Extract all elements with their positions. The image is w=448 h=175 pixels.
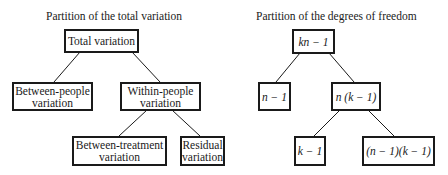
node-label: Between-people bbox=[15, 85, 90, 97]
node-k-minus-1: k − 1 bbox=[294, 136, 326, 166]
node-residual-df: (n − 1)(k − 1) bbox=[362, 136, 435, 166]
node-label: n (k − 1) bbox=[336, 91, 377, 103]
node-label: variation bbox=[76, 151, 164, 163]
node-label: kn − 1 bbox=[298, 36, 328, 48]
node-label: (n − 1)(k − 1) bbox=[366, 145, 431, 157]
node-label: Residual bbox=[182, 139, 223, 151]
node-n-minus-1: n − 1 bbox=[258, 82, 291, 111]
node-within-people-variation: Within-people variation bbox=[120, 82, 201, 111]
node-kn-minus-1: kn − 1 bbox=[292, 29, 335, 54]
node-label: variation bbox=[15, 97, 90, 109]
node-total-variation: Total variation bbox=[64, 29, 139, 53]
node-residual-variation: Residual variation bbox=[180, 136, 225, 166]
node-label: Within-people bbox=[128, 85, 194, 97]
node-label: k − 1 bbox=[298, 145, 322, 157]
node-between-people-variation: Between-people variation bbox=[12, 82, 93, 111]
right-diagram-title: Partition of the degrees of freedom bbox=[256, 10, 417, 22]
node-n-k-minus-1: n (k − 1) bbox=[331, 82, 381, 111]
left-diagram-title: Partition of the total variation bbox=[46, 10, 182, 22]
node-label: Total variation bbox=[68, 35, 135, 47]
node-label: Between-treatment bbox=[76, 139, 164, 151]
node-label: n − 1 bbox=[262, 91, 287, 103]
node-between-treatment-variation: Between-treatment variation bbox=[72, 136, 167, 166]
node-label: variation bbox=[182, 151, 223, 163]
node-label: variation bbox=[128, 97, 194, 109]
